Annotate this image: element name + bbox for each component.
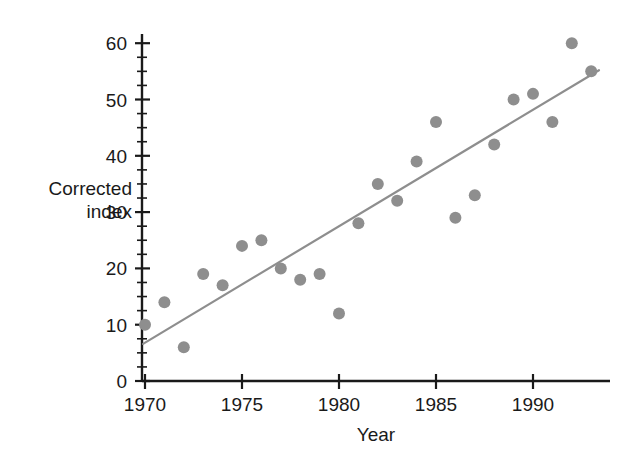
data-point: [217, 279, 229, 291]
y-tick-label-0: 0: [116, 371, 127, 392]
scatter-plot-figure: 0102030405060 19701975198019851990 Corre…: [0, 0, 634, 450]
x-axis-title: Year: [357, 424, 396, 445]
data-point: [275, 262, 287, 274]
y-axis-title-line-2: index: [87, 201, 133, 222]
data-point: [314, 268, 326, 280]
y-tick-label-10: 10: [106, 315, 127, 336]
data-point: [158, 296, 170, 308]
data-point: [197, 268, 209, 280]
data-point: [566, 37, 578, 49]
y-tick-label-40: 40: [106, 146, 127, 167]
data-point: [508, 94, 520, 106]
data-point: [546, 116, 558, 128]
data-point: [449, 212, 461, 224]
data-point: [488, 139, 500, 151]
x-tick-label-1990: 1990: [512, 394, 554, 415]
data-point: [527, 88, 539, 100]
data-point: [333, 307, 345, 319]
data-point: [469, 189, 481, 201]
data-point: [430, 116, 442, 128]
data-point: [391, 195, 403, 207]
plot-background: [0, 0, 634, 450]
data-point: [255, 234, 267, 246]
data-point: [178, 341, 190, 353]
x-tick-label-1985: 1985: [415, 394, 457, 415]
data-point: [411, 155, 423, 167]
y-axis-title-line-1: Corrected: [49, 178, 132, 199]
data-point: [236, 240, 248, 252]
plot-canvas: 0102030405060 19701975198019851990 Corre…: [0, 0, 634, 450]
x-tick-label-1980: 1980: [318, 394, 360, 415]
data-point: [352, 217, 364, 229]
y-tick-label-60: 60: [106, 33, 127, 54]
x-tick-label-1975: 1975: [221, 394, 263, 415]
x-tick-label-1970: 1970: [124, 394, 166, 415]
data-point: [585, 65, 597, 77]
y-tick-label-20: 20: [106, 258, 127, 279]
data-point: [372, 178, 384, 190]
y-tick-label-50: 50: [106, 90, 127, 111]
data-point: [294, 274, 306, 286]
data-point: [139, 319, 151, 331]
